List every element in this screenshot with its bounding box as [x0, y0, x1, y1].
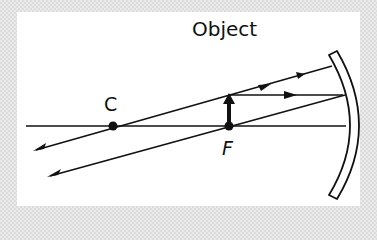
point-F-dot	[225, 122, 234, 131]
label-focal-point: F	[222, 137, 233, 159]
arrowhead-left-upper	[33, 143, 46, 151]
diagram-title: Object	[192, 17, 257, 41]
arrowhead-ray-c-mid	[258, 84, 271, 91]
ray-through-C	[36, 66, 332, 150]
point-C-dot	[109, 122, 118, 131]
ray-diagram	[0, 0, 377, 206]
label-center-of-curvature: C	[104, 93, 117, 115]
concave-mirror	[329, 51, 359, 199]
arrowhead-left-lower	[47, 169, 61, 177]
arrowhead-parallel	[284, 91, 297, 99]
arrowhead-ray-c-right	[296, 72, 305, 79]
ray-reflected-through-F	[50, 95, 345, 176]
